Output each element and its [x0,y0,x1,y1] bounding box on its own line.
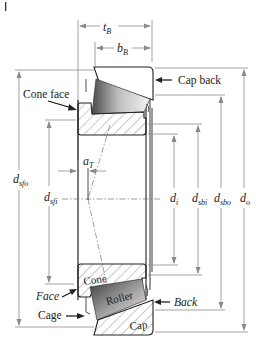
callout-back: Back [154,296,198,308]
callout-cone-face: Cone face [23,88,77,111]
label-d-i: di [170,191,178,207]
label-b-b: bB [117,41,128,57]
dimension-b-b: bB [95,41,151,66]
label-cage: Cage [38,309,62,322]
label-cap: Cap [129,318,148,332]
label-d-o: do [240,191,250,207]
label-a-t: aT [83,154,94,170]
label-cap-back: Cap back [178,74,221,87]
label-t-b: tB [103,20,111,36]
label-back: Back [174,296,198,308]
label-cone-face: Cone face [23,88,69,100]
callout-cage: Cage [38,309,85,322]
dimension-d-i: di [148,134,178,265]
label-d-sbo: dsbo [214,191,231,207]
dimension-d-sfi: dsfi [44,120,76,284]
callout-cap-back: Cap back [155,74,221,87]
callout-face: Face [35,289,77,302]
label-d-sbi: dsbi [192,191,207,207]
page-edge-mark [5,2,6,11]
tapered-roller-bearing-diagram: tB bB Cone Roller Cap aT [0,0,262,344]
label-face: Face [35,290,59,302]
label-d-sfi: dsfi [44,190,58,206]
label-d-sfo: dsfo [13,172,28,188]
